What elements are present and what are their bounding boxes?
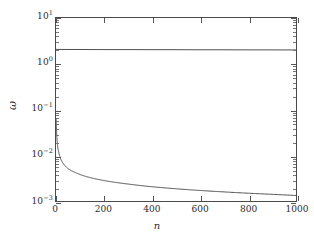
y-tick-major bbox=[291, 18, 296, 19]
x-tick-label-400: 400 bbox=[143, 205, 160, 214]
y-tick-exponent: −1 bbox=[43, 101, 53, 109]
y-tick-label-1em2: 10−2 bbox=[32, 150, 53, 159]
x-tick-label-1000: 1000 bbox=[286, 205, 309, 214]
y-tick-minor bbox=[56, 143, 59, 144]
series-upper-constant-branch bbox=[56, 49, 296, 50]
x-tick-label-800: 800 bbox=[240, 205, 257, 214]
x-tick-major bbox=[250, 196, 251, 201]
y-tick-minor bbox=[293, 143, 296, 144]
y-tick-exponent: 1 bbox=[49, 9, 53, 17]
y-tick-minor bbox=[293, 175, 296, 176]
y-tick-major bbox=[291, 157, 296, 158]
y-tick-minor bbox=[56, 32, 59, 33]
y-tick-minor bbox=[56, 97, 59, 98]
y-tick-minor bbox=[56, 124, 59, 125]
y-tick-minor bbox=[293, 121, 296, 122]
y-tick-minor bbox=[56, 50, 59, 51]
y-tick-minor bbox=[56, 164, 59, 165]
y-tick-label-1e0: 100 bbox=[37, 58, 53, 67]
y-tick-minor bbox=[293, 97, 296, 98]
x-tick-major bbox=[298, 18, 299, 23]
y-tick-minor bbox=[56, 75, 59, 76]
y-tick-minor bbox=[293, 28, 296, 29]
y-tick-minor bbox=[56, 42, 59, 43]
y-tick-minor bbox=[56, 66, 59, 67]
y-tick-minor bbox=[56, 121, 59, 122]
y-axis-title: ω bbox=[7, 101, 18, 110]
y-tick-minor bbox=[293, 181, 296, 182]
y-tick-minor bbox=[56, 83, 59, 84]
y-tick-major bbox=[56, 111, 61, 112]
y-tick-label-1e1: 101 bbox=[37, 12, 53, 21]
y-tick-minor bbox=[56, 113, 59, 114]
y-tick-minor bbox=[293, 171, 296, 172]
series-lower-decaying-branch bbox=[56, 119, 296, 195]
y-tick-minor bbox=[293, 189, 296, 190]
y-tick-minor bbox=[56, 189, 59, 190]
y-tick-minor bbox=[293, 118, 296, 119]
y-tick-exponent: −2 bbox=[43, 147, 53, 155]
x-tick-major bbox=[298, 196, 299, 201]
y-tick-minor bbox=[293, 167, 296, 168]
x-tick-label-200: 200 bbox=[95, 205, 112, 214]
y-tick-minor bbox=[56, 118, 59, 119]
x-tick-major bbox=[104, 196, 105, 201]
x-tick-major bbox=[104, 18, 105, 23]
y-tick-minor bbox=[293, 71, 296, 72]
y-tick-minor bbox=[56, 28, 59, 29]
y-tick-minor bbox=[293, 113, 296, 114]
y-tick-minor bbox=[293, 66, 296, 67]
chart-curves bbox=[56, 18, 296, 201]
y-tick-minor bbox=[56, 25, 59, 26]
y-tick-label-1em1: 10−1 bbox=[32, 104, 53, 113]
x-tick-label-600: 600 bbox=[192, 205, 209, 214]
y-tick-minor bbox=[293, 135, 296, 136]
y-tick-minor bbox=[56, 36, 59, 37]
y-tick-minor bbox=[56, 135, 59, 136]
y-tick-minor bbox=[293, 75, 296, 76]
y-tick-minor bbox=[293, 129, 296, 130]
y-tick-minor bbox=[293, 115, 296, 116]
y-tick-minor bbox=[56, 167, 59, 168]
y-tick-minor bbox=[56, 175, 59, 176]
y-tick-minor bbox=[293, 20, 296, 21]
x-tick-major bbox=[153, 18, 154, 23]
x-tick-major bbox=[56, 196, 57, 201]
y-tick-minor bbox=[56, 161, 59, 162]
x-tick-major bbox=[250, 18, 251, 23]
y-tick-minor bbox=[56, 115, 59, 116]
y-tick-minor bbox=[293, 78, 296, 79]
y-tick-minor bbox=[293, 124, 296, 125]
y-tick-minor bbox=[293, 36, 296, 37]
x-tick-major bbox=[56, 18, 57, 23]
y-tick-minor bbox=[293, 22, 296, 23]
y-tick-minor bbox=[293, 69, 296, 70]
figure-canvas: ω 101 100 10−1 10−2 10−3 0 200 400 600 8… bbox=[0, 0, 314, 239]
y-tick-minor bbox=[56, 171, 59, 172]
y-tick-minor bbox=[293, 42, 296, 43]
y-tick-label-1em3: 10−3 bbox=[32, 197, 53, 206]
y-tick-minor bbox=[293, 159, 296, 160]
x-tick-major bbox=[153, 196, 154, 201]
y-tick-minor bbox=[293, 88, 296, 89]
plot-area bbox=[55, 17, 297, 202]
y-tick-minor bbox=[293, 161, 296, 162]
y-tick-major bbox=[291, 203, 296, 204]
y-tick-minor bbox=[56, 88, 59, 89]
y-tick-minor bbox=[293, 50, 296, 51]
y-tick-minor bbox=[56, 71, 59, 72]
x-axis-title: n bbox=[0, 221, 314, 231]
x-tick-label-0: 0 bbox=[52, 205, 58, 214]
y-tick-exponent: 0 bbox=[49, 55, 53, 63]
y-tick-minor bbox=[56, 69, 59, 70]
y-tick-major bbox=[56, 203, 61, 204]
y-tick-major bbox=[56, 157, 61, 158]
y-tick-minor bbox=[56, 129, 59, 130]
y-tick-minor bbox=[56, 159, 59, 160]
y-tick-minor bbox=[293, 32, 296, 33]
y-tick-major bbox=[291, 111, 296, 112]
y-tick-major bbox=[291, 64, 296, 65]
x-tick-major bbox=[201, 196, 202, 201]
y-tick-exponent: −3 bbox=[43, 194, 53, 202]
y-tick-minor bbox=[293, 25, 296, 26]
